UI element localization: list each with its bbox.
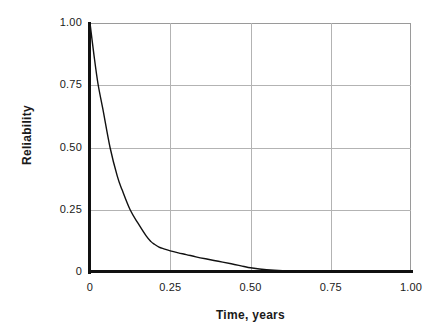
reliability-curve bbox=[90, 23, 411, 272]
curve-path bbox=[90, 23, 411, 272]
x-tick-label: 0.75 bbox=[301, 281, 361, 293]
x-axis-title: Time, years bbox=[90, 308, 411, 322]
x-tick-label: 0.25 bbox=[140, 281, 200, 293]
reliability-chart: 00.250.500.751.00 00.250.500.751.00 Time… bbox=[0, 0, 434, 336]
x-tick-label: 0 bbox=[60, 281, 120, 293]
y-tick-label: 1.00 bbox=[24, 16, 82, 28]
x-tick-label: 0.50 bbox=[221, 281, 281, 293]
x-tick-label: 1.00 bbox=[381, 281, 434, 293]
y-tick-label: 0.25 bbox=[24, 203, 82, 215]
y-axis-title: Reliability bbox=[20, 85, 34, 185]
y-tick-label: 0 bbox=[24, 265, 82, 277]
